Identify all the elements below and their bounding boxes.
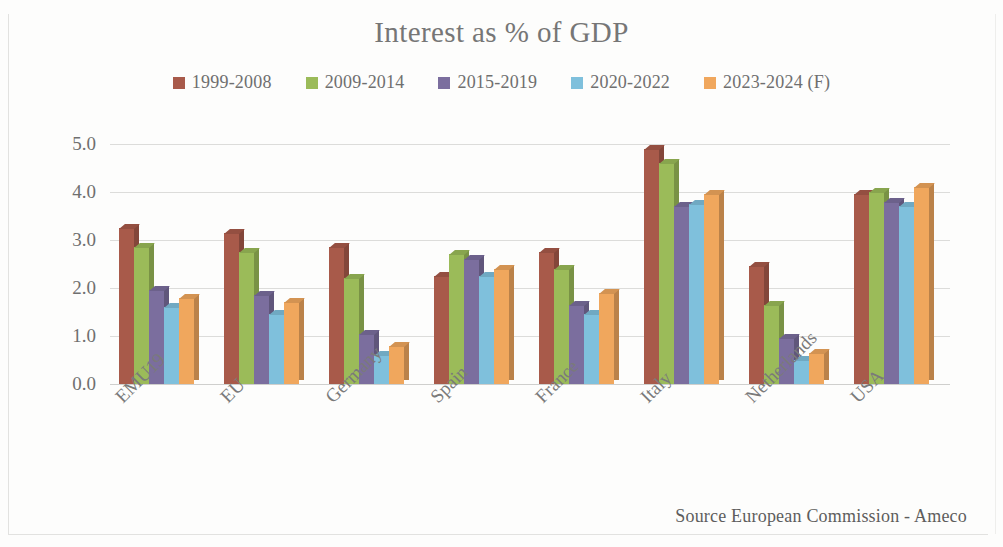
bar-group (644, 144, 719, 384)
bar[interactable] (704, 194, 719, 384)
y-axis-tick-label: 5.0 (50, 133, 96, 155)
bar-group (539, 144, 614, 384)
bar-face (584, 314, 599, 384)
bar[interactable] (539, 252, 554, 384)
bar-face (659, 163, 674, 384)
legend-label: 2015-2019 (457, 72, 537, 93)
bar-face (479, 276, 494, 384)
bar-face (119, 228, 134, 384)
legend-swatch-icon (704, 77, 716, 89)
bar-side (719, 190, 724, 380)
bar-side (509, 265, 514, 380)
bar[interactable] (254, 295, 269, 384)
legend-item[interactable]: 2020-2022 (571, 72, 670, 93)
bar-group (434, 144, 509, 384)
bar[interactable] (914, 187, 929, 384)
bar-face (749, 266, 764, 384)
bar-side (824, 349, 829, 380)
bar[interactable] (389, 346, 404, 384)
bar-face (224, 233, 239, 384)
bar-face (239, 252, 254, 384)
bar-groups (110, 144, 950, 384)
y-axis-tick-label: 2.0 (50, 277, 96, 299)
bar[interactable] (749, 266, 764, 384)
bar[interactable] (689, 204, 704, 384)
bar[interactable] (269, 314, 284, 384)
bar-face (494, 269, 509, 384)
legend-swatch-icon (438, 77, 450, 89)
bar[interactable] (329, 247, 344, 384)
legend-label: 2023-2024 (F) (723, 72, 830, 93)
bar-face (179, 298, 194, 384)
legend-label: 2009-2014 (325, 72, 405, 93)
bar[interactable] (479, 276, 494, 384)
legend-swatch-icon (173, 77, 185, 89)
bar-face (854, 194, 869, 384)
bar-face (899, 206, 914, 384)
y-axis-tick-label: 3.0 (50, 229, 96, 251)
legend-item[interactable]: 2009-2014 (306, 72, 405, 93)
bar-face (884, 202, 899, 384)
legend-label: 2020-2022 (590, 72, 670, 93)
legend-item[interactable]: 2023-2024 (F) (704, 72, 830, 93)
bar-face (644, 149, 659, 384)
legend-label: 1999-2008 (192, 72, 272, 93)
bar-face (284, 302, 299, 384)
bar-face (869, 192, 884, 384)
bar-face (674, 206, 689, 384)
source-note: Source European Commission - Ameco (675, 506, 967, 527)
bar-face (329, 247, 344, 384)
legend-swatch-icon (571, 77, 583, 89)
bar-face (269, 314, 284, 384)
bar[interactable] (644, 149, 659, 384)
bar[interactable] (584, 314, 599, 384)
bar[interactable] (434, 276, 449, 384)
bar-group (224, 144, 299, 384)
bar-face (539, 252, 554, 384)
bar-side (929, 183, 934, 380)
bar[interactable] (674, 206, 689, 384)
bar-face (254, 295, 269, 384)
bar[interactable] (224, 233, 239, 384)
bar[interactable] (119, 228, 134, 384)
bar[interactable] (899, 206, 914, 384)
bar-face (689, 204, 704, 384)
bar[interactable] (179, 298, 194, 384)
bar-face (164, 307, 179, 384)
bar-side (299, 298, 304, 380)
y-axis-ticks: 0.01.02.03.04.05.0 (50, 144, 96, 384)
y-axis-tick-label: 1.0 (50, 325, 96, 347)
bar[interactable] (284, 302, 299, 384)
bar-side (194, 294, 199, 380)
bar-face (809, 353, 824, 384)
bar-face (914, 187, 929, 384)
bar[interactable] (659, 163, 674, 384)
legend-item[interactable]: 2015-2019 (438, 72, 537, 93)
bar-face (599, 293, 614, 384)
bar-face (389, 346, 404, 384)
bar[interactable] (239, 252, 254, 384)
chart-title: Interest as % of GDP (0, 16, 1003, 49)
bar-face (704, 194, 719, 384)
bar[interactable] (809, 353, 824, 384)
bar-group (119, 144, 194, 384)
bar-side (404, 342, 409, 380)
bar-side (614, 289, 619, 380)
bar[interactable] (164, 307, 179, 384)
bar[interactable] (494, 269, 509, 384)
page-border-bottom (8, 534, 988, 535)
bar-group (854, 144, 929, 384)
chart-legend: 1999-20082009-20142015-20192020-20222023… (0, 72, 1003, 93)
legend-item[interactable]: 1999-2008 (173, 72, 272, 93)
y-axis-tick-label: 4.0 (50, 181, 96, 203)
bar[interactable] (464, 259, 479, 384)
bar[interactable] (854, 194, 869, 384)
legend-swatch-icon (306, 77, 318, 89)
bar-face (464, 259, 479, 384)
y-axis-tick-label: 0.0 (50, 373, 96, 395)
x-axis-labels: EMU19EUGermanySpainFranceItalyNetherland… (110, 392, 950, 482)
bar[interactable] (884, 202, 899, 384)
bar-face (434, 276, 449, 384)
bar[interactable] (869, 192, 884, 384)
bar[interactable] (599, 293, 614, 384)
